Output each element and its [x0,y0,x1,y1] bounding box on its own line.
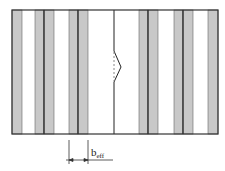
arrow-left-icon [69,159,73,162]
strip [174,10,183,134]
strip [44,10,54,134]
arrow-right-icon [84,159,88,162]
strip [183,10,193,134]
strip [69,10,78,134]
plate-diagram: beff [0,0,225,171]
strip [12,10,22,134]
strip [148,10,158,134]
stiffener-strips [12,10,218,134]
strip [35,10,44,134]
dimension-beff [66,140,113,164]
dimension-label: beff [91,146,105,160]
center-crack [114,10,121,134]
strip [139,10,148,134]
strip [208,10,218,134]
strip [78,10,88,134]
